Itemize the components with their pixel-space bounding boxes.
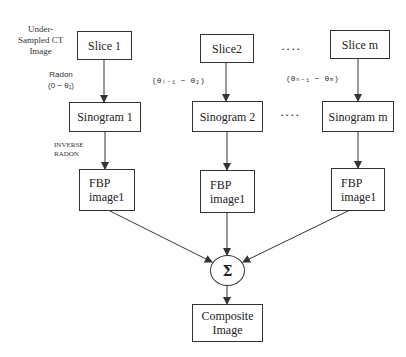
slice-1-box: Slice 1 [77,31,132,60]
fbp-image-2-box: FBP image1 [200,170,255,213]
fbp-m-line2: image1 [341,190,376,204]
ellipsis-middle: •••• [281,112,301,118]
angle-range-2: (θᵢ₋₁ − θ₂) [152,75,205,86]
sigma-symbol: Σ [223,263,233,279]
fbp-m-line1: FBP [341,176,376,190]
inverse-radon-label: INVERSE RADON [54,141,84,159]
fbp-1-line2: image1 [89,190,124,204]
sinogram-m-label: Sinogram m [329,110,388,124]
input-label-line3: Image [18,46,63,57]
slice-m-label: Slice m [342,38,378,52]
inverse-label-line1: INVERSE [54,141,84,150]
radon-label: Radon (0 − θ₁) [41,69,81,91]
input-label-line2: Sampled CT [18,35,63,46]
sinogram-1-label: Sinogram 1 [77,110,133,124]
radon-text: Radon [41,69,81,80]
composite-image-box: Composite Image [192,304,263,342]
input-label-line1: Under- [18,24,63,35]
slice-2-box: Slice2 [200,34,254,63]
slice-1-label: Slice 1 [88,39,121,53]
slice-m-box: Slice m [330,30,390,59]
composite-line2: Image [201,323,253,337]
fbp-1-line1: FBP [89,176,124,190]
angle-range-m: (θₙ₋₁ − θₘ) [286,73,339,84]
fbp-2-line2: image1 [210,192,245,206]
sinogram-m-box: Sinogram m [322,101,394,132]
inverse-label-line2: RADON [54,150,84,159]
input-label: Under- Sampled CT Image [18,24,63,57]
sinogram-2-label: Sinogram 2 [200,110,256,124]
fbp-image-m-box: FBP image1 [331,168,385,211]
slice-2-label: Slice2 [212,42,242,56]
fbp-image-1-box: FBP image1 [79,169,135,211]
composite-line1: Composite [201,309,253,323]
fbp-2-line1: FBP [210,178,245,192]
angle-range-1: (0 − θ₁) [41,80,81,91]
sigma-summation-icon: Σ [210,255,245,286]
sinogram-2-box: Sinogram 2 [192,101,263,132]
ellipsis-top: •••• [282,46,302,52]
sinogram-1-box: Sinogram 1 [69,102,141,132]
